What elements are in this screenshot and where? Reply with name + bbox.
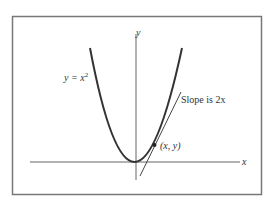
frame — [13, 17, 262, 195]
x-axis-label: x — [242, 157, 246, 167]
point-label: (x, y) — [160, 141, 181, 151]
curve-label: y = x2 — [64, 72, 88, 83]
y-axis-label: y — [136, 28, 140, 38]
tangent-point — [153, 143, 157, 147]
slope-label: Slope is 2x — [181, 95, 225, 105]
diagram — [0, 0, 266, 204]
tangent-line — [140, 92, 181, 176]
